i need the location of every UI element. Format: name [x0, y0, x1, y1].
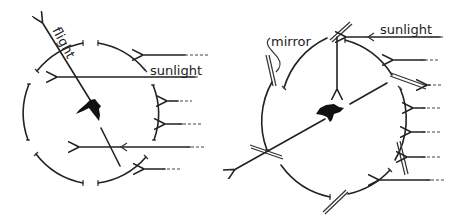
figure-svg: flight sunlight	[0, 0, 464, 223]
mirrors	[250, 22, 427, 214]
mirror	[390, 73, 427, 89]
cage-arc	[348, 170, 390, 194]
sunlight-label-left: sunlight	[150, 63, 202, 78]
sunlight-label-right: sunlight	[380, 22, 432, 37]
cage-arc	[281, 165, 330, 197]
bird-icon	[76, 99, 101, 121]
cage-arc	[98, 43, 145, 70]
mirror	[266, 55, 276, 86]
right-panel: mirror sunli	[234, 22, 444, 214]
left-panel: flight sunlight	[23, 22, 208, 186]
mirror	[397, 141, 408, 175]
mirror-label: mirror	[271, 34, 311, 49]
diagram-canvas: flight sunlight	[0, 0, 464, 223]
cage-arc	[262, 82, 272, 150]
bird-icon	[316, 104, 344, 122]
cage-arc	[345, 40, 392, 75]
mirror	[323, 190, 348, 214]
flight-arrow-right	[234, 83, 387, 170]
cage-arc	[153, 85, 159, 140]
sunlight-arrows-right	[345, 33, 444, 180]
cage-arc	[23, 84, 29, 140]
cage-arc	[98, 157, 146, 183]
left-cage	[23, 40, 158, 186]
mirror	[330, 22, 352, 42]
cage-arc	[36, 154, 83, 183]
cage-arc	[395, 88, 406, 160]
right-cage	[262, 37, 407, 200]
